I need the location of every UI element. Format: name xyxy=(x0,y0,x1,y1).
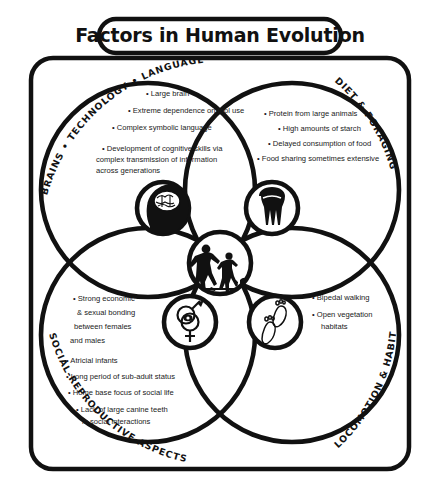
bullet-item: • Home base focus of social life xyxy=(68,388,174,397)
bullet-item: • Strong economic xyxy=(73,294,135,303)
bullet-item: • Food sharing sometimes extensive xyxy=(257,154,379,163)
bullet-item: • Development of cognitive skills via xyxy=(102,144,223,153)
bullet-item: complex transmission of information xyxy=(96,155,217,164)
bullet-item: • Lack of large canine teeth xyxy=(76,405,168,414)
poster-root: BRAINS • TECHNOLOGY • LANGUAGE • CULTURE… xyxy=(0,0,440,491)
bullet-item: and males xyxy=(70,336,105,345)
bullet-item: in social interactions xyxy=(82,417,151,426)
bullet-item: • Open vegetation xyxy=(312,310,373,319)
bullet-item: • Bipedal walking xyxy=(312,293,370,302)
bullet-item: across generations xyxy=(96,166,160,175)
bullet-item: between females xyxy=(74,322,132,331)
bullet-item: habitats xyxy=(321,322,348,331)
bullet-item: • Delayed consumption of food xyxy=(268,139,371,148)
bullet-item: & sexual bonding xyxy=(77,308,135,317)
icon-circle-feet[interactable] xyxy=(249,296,301,348)
bullet-item: • Extreme dependence on tool use xyxy=(128,106,244,115)
bullet-item: • Atricial infants xyxy=(66,356,118,365)
bullet-item: • Protein from large animals xyxy=(264,109,358,118)
factors-in-human-evolution-diagram: BRAINS • TECHNOLOGY • LANGUAGE • CULTURE… xyxy=(0,0,440,491)
bullet-item: • Long period of sub-adult status xyxy=(66,372,175,381)
bullet-item: • High amounts of starch xyxy=(278,124,361,133)
bullet-item: • Complex symbolic language xyxy=(112,123,212,132)
bullet-item: • Large brain xyxy=(146,89,189,98)
title-banner: Factors in Human Evolution xyxy=(75,19,365,53)
page-title: Factors in Human Evolution xyxy=(75,24,365,46)
